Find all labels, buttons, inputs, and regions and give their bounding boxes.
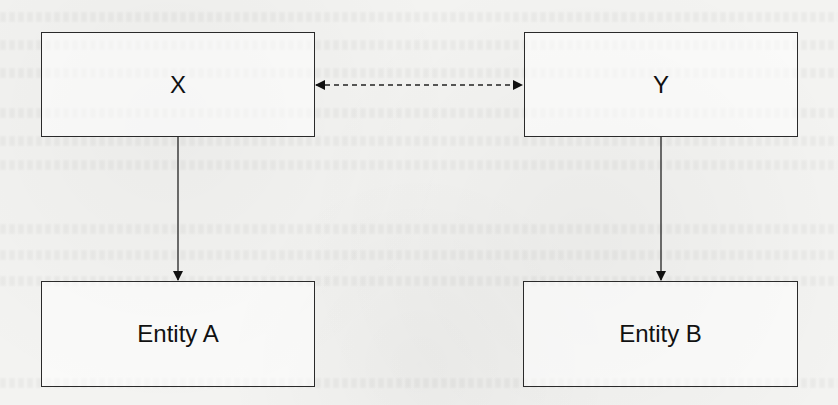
node-x-label: X	[170, 71, 186, 99]
node-x: X	[41, 32, 315, 137]
node-entity-b-label: Entity B	[619, 320, 702, 348]
node-y: Y	[524, 32, 798, 137]
node-entity-a-label: Entity A	[137, 320, 218, 348]
node-entity-a: Entity A	[41, 281, 315, 387]
node-y-label: Y	[653, 71, 669, 99]
node-entity-b: Entity B	[523, 281, 798, 387]
